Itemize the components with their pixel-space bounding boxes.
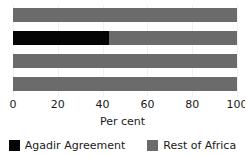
bar-row xyxy=(13,77,237,91)
bar-chart: 020406080100 Per cent Agadir AgreementRe… xyxy=(0,0,245,157)
square-swatch xyxy=(147,140,158,151)
x-axis: 020406080100 xyxy=(0,98,245,114)
bar-segment xyxy=(13,31,109,45)
gridline xyxy=(237,5,238,97)
x-axis-title: Per cent xyxy=(0,115,245,129)
bar-segment xyxy=(13,77,237,91)
bar-row xyxy=(13,54,237,68)
bar-segment xyxy=(109,31,237,45)
x-tick-label: 0 xyxy=(10,98,17,112)
x-tick-label: 100 xyxy=(227,98,246,112)
bar-row xyxy=(13,31,237,45)
bar-row xyxy=(13,8,237,22)
legend-item: Agadir Agreement xyxy=(9,139,125,152)
x-tick-label: 40 xyxy=(96,98,110,112)
legend-label: Agadir Agreement xyxy=(25,139,125,152)
x-tick-label: 20 xyxy=(51,98,65,112)
bar-segment xyxy=(13,8,237,22)
legend-item: Rest of Africa xyxy=(147,139,236,152)
square-swatch xyxy=(9,140,20,151)
bar-segment xyxy=(13,54,237,68)
plot-area xyxy=(13,5,237,97)
x-tick-label: 80 xyxy=(185,98,199,112)
legend-label: Rest of Africa xyxy=(163,139,236,152)
x-tick-label: 60 xyxy=(140,98,154,112)
chart-legend: Agadir AgreementRest of Africa xyxy=(0,136,245,154)
